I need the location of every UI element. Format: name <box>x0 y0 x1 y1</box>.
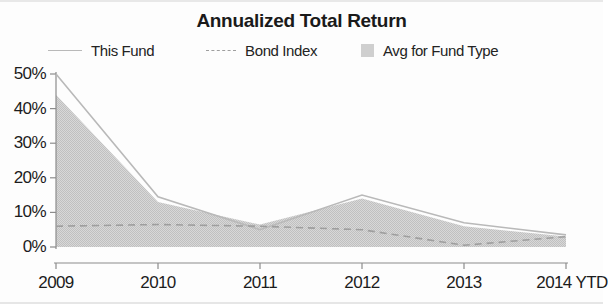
y-axis-tick-label: 20% <box>2 168 46 188</box>
x-axis-tick-label: 2010 <box>140 273 175 293</box>
y-axis-tick-label: 50% <box>2 64 46 84</box>
x-axis-tick-label: 2012 <box>344 273 379 293</box>
x-axis-tick-label: 2014 YTD <box>536 273 607 293</box>
y-axis-tick-label: 10% <box>2 202 46 222</box>
x-axis-tick-label: 2011 <box>243 273 277 293</box>
y-axis-tick-label: 40% <box>2 99 46 119</box>
y-axis-tick-label: 0% <box>2 237 46 257</box>
y-axis-tick-label: 30% <box>2 133 46 153</box>
x-axis-tick-label: 2013 <box>446 273 481 293</box>
chart-plot-area <box>0 2 603 304</box>
x-axis-tick-label: 2009 <box>38 273 73 293</box>
